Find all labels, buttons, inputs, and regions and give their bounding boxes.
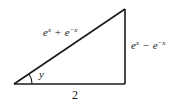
adjacent-side-label: 2	[72, 89, 78, 101]
opp-exponent-2: −x	[158, 39, 166, 47]
hypotenuse-label: ex + e−x	[43, 27, 77, 38]
hyp-operator: +	[55, 26, 61, 38]
hyp-exponent-2: −x	[70, 26, 78, 34]
triangle-hypotenuse	[14, 9, 125, 84]
angle-arc	[29, 74, 32, 84]
opposite-side-label: ex − e−x	[131, 40, 165, 51]
triangle-diagram	[0, 0, 179, 104]
opp-operator: −	[143, 39, 149, 51]
hyp-exponent-1: x	[48, 26, 51, 34]
angle-label: y	[39, 69, 44, 80]
opp-exponent-1: x	[136, 39, 139, 47]
